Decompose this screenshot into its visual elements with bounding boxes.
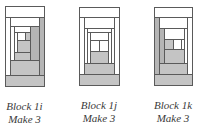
block-title: Block 1j [69, 99, 129, 112]
quilt-piece [154, 74, 193, 86]
block-title: Block 1i [0, 100, 55, 113]
caption-block-1i: Block 1i Make 3 [0, 100, 55, 126]
block-title: Block 1k [143, 99, 197, 112]
quilt-piece [90, 51, 109, 64]
block-instruction: Make 3 [143, 112, 197, 125]
quilt-piece [14, 52, 31, 61]
quilt-piece [10, 60, 40, 76]
quilt-piece [79, 74, 120, 86]
block-instruction: Make 3 [0, 113, 55, 126]
quilt-piece [30, 26, 40, 61]
quilt-block-1i [5, 6, 44, 86]
quilt-piece [159, 63, 188, 75]
quilt-piece [181, 39, 185, 50]
caption-block-1j: Block 1j Make 3 [69, 99, 129, 125]
quilt-piece [5, 75, 45, 87]
block-instruction: Make 3 [69, 112, 129, 125]
quilt-piece [84, 63, 115, 75]
quilt-block-1k [154, 7, 192, 85]
quilt-block-1j [79, 7, 119, 85]
quilt-piece [164, 49, 185, 64]
caption-block-1k: Block 1k Make 3 [143, 99, 197, 125]
quilt-piece [17, 40, 31, 53]
